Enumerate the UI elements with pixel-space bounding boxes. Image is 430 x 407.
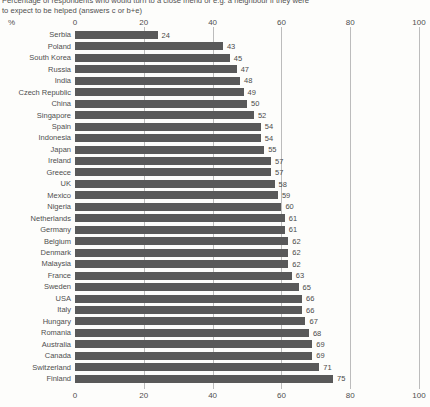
- top-axis-tick-40: 40: [208, 18, 217, 27]
- value-label-india: 48: [244, 76, 252, 85]
- value-label-italy: 66: [306, 306, 314, 315]
- bar-china: [75, 100, 247, 108]
- category-label-finland: Finland: [0, 374, 71, 383]
- bar-uk: [75, 180, 275, 188]
- top-axis-tick-80: 80: [346, 18, 355, 27]
- chart-title-line1: Percentage of respondents who would turn…: [2, 0, 309, 5]
- category-label-australia: Australia: [0, 340, 71, 349]
- category-label-serbia: Serbia: [0, 30, 71, 39]
- category-label-malaysia: Malaysia: [0, 259, 71, 268]
- value-label-malaysia: 62: [292, 260, 300, 269]
- category-label-italy: Italy: [0, 305, 71, 314]
- gridline-x-100: [419, 27, 420, 389]
- category-label-nigeria: Nigeria: [0, 202, 71, 211]
- value-label-singapore: 52: [258, 111, 266, 120]
- bar-greece: [75, 168, 271, 176]
- bar-nigeria: [75, 203, 281, 211]
- bottom-axis-tick-0: 0: [73, 391, 77, 400]
- category-label-greece: Greece: [0, 168, 71, 177]
- bar-italy: [75, 306, 302, 314]
- value-label-south-korea: 45: [234, 54, 242, 63]
- bar-germany: [75, 226, 285, 234]
- value-label-czech-republic: 49: [248, 88, 256, 97]
- value-label-china: 50: [251, 99, 259, 108]
- value-label-france: 63: [296, 271, 304, 280]
- category-label-south-korea: South Korea: [0, 53, 71, 62]
- category-label-denmark: Denmark: [0, 248, 71, 257]
- bar-malaysia: [75, 260, 288, 268]
- category-label-poland: Poland: [0, 42, 71, 51]
- value-label-serbia: 24: [162, 31, 170, 40]
- bar-czech-republic: [75, 88, 244, 96]
- value-label-australia: 69: [316, 340, 324, 349]
- value-label-canada: 69: [316, 351, 324, 360]
- category-label-uk: UK: [0, 179, 71, 188]
- value-label-indonesia: 54: [265, 134, 273, 143]
- value-label-denmark: 62: [292, 248, 300, 257]
- category-label-ireland: Ireland: [0, 156, 71, 165]
- category-label-switzerland: Switzerland: [0, 363, 71, 372]
- percent-axis-unit: %: [8, 18, 15, 27]
- bar-ireland: [75, 157, 271, 165]
- category-label-germany: Germany: [0, 225, 71, 234]
- bar-france: [75, 272, 292, 280]
- bottom-axis-tick-100: 100: [412, 391, 425, 400]
- bottom-axis-tick-40: 40: [208, 391, 217, 400]
- bar-south-korea: [75, 54, 230, 62]
- bottom-axis-tick-20: 20: [139, 391, 148, 400]
- bar-romania: [75, 329, 309, 337]
- category-label-usa: USA: [0, 294, 71, 303]
- value-label-netherlands: 61: [289, 214, 297, 223]
- category-label-russia: Russia: [0, 65, 71, 74]
- category-label-china: China: [0, 99, 71, 108]
- category-label-france: France: [0, 271, 71, 280]
- bar-switzerland: [75, 363, 319, 371]
- bar-japan: [75, 146, 264, 154]
- value-label-ireland: 57: [275, 157, 283, 166]
- bar-australia: [75, 340, 312, 348]
- value-label-switzerland: 71: [323, 363, 331, 372]
- value-label-romania: 68: [313, 329, 321, 338]
- value-label-japan: 55: [268, 145, 276, 154]
- value-label-finland: 75: [337, 374, 345, 383]
- bar-serbia: [75, 31, 158, 39]
- value-label-usa: 66: [306, 294, 314, 303]
- top-axis-tick-100: 100: [412, 18, 425, 27]
- category-label-singapore: Singapore: [0, 111, 71, 120]
- value-label-poland: 43: [227, 42, 235, 51]
- bar-netherlands: [75, 214, 285, 222]
- bar-usa: [75, 295, 302, 303]
- value-label-spain: 54: [265, 122, 273, 131]
- bottom-axis-tick-80: 80: [346, 391, 355, 400]
- value-label-greece: 57: [275, 168, 283, 177]
- bar-belgium: [75, 237, 288, 245]
- value-label-mexico: 59: [282, 191, 290, 200]
- bar-russia: [75, 65, 237, 73]
- top-axis-tick-20: 20: [139, 18, 148, 27]
- category-label-sweden: Sweden: [0, 282, 71, 291]
- value-label-uk: 58: [279, 180, 287, 189]
- gridline-x-80: [350, 27, 351, 389]
- bar-spain: [75, 123, 261, 131]
- bottom-axis-tick-60: 60: [277, 391, 286, 400]
- category-label-romania: Romania: [0, 328, 71, 337]
- value-label-nigeria: 60: [285, 202, 293, 211]
- category-label-japan: Japan: [0, 145, 71, 154]
- top-axis-tick-60: 60: [277, 18, 286, 27]
- category-label-czech-republic: Czech Republic: [0, 88, 71, 97]
- category-label-netherlands: Netherlands: [0, 214, 71, 223]
- bar-sweden: [75, 283, 299, 291]
- bar-denmark: [75, 249, 288, 257]
- bar-canada: [75, 352, 312, 360]
- category-label-spain: Spain: [0, 122, 71, 131]
- bar-chart-figure: Percentage of respondents who would turn…: [0, 0, 430, 407]
- category-label-mexico: Mexico: [0, 191, 71, 200]
- bar-hungary: [75, 317, 305, 325]
- category-label-india: India: [0, 76, 71, 85]
- bar-india: [75, 77, 240, 85]
- value-label-russia: 47: [241, 65, 249, 74]
- category-label-indonesia: Indonesia: [0, 133, 71, 142]
- bar-singapore: [75, 111, 254, 119]
- top-axis-tick-0: 0: [73, 18, 77, 27]
- bar-indonesia: [75, 134, 261, 142]
